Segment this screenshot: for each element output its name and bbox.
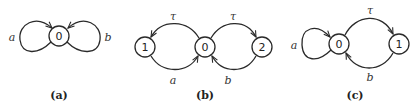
diagram-c: 0 1 a τ b (c) [291,4,409,102]
diagram-a: 0 a b (a) [9,21,112,101]
edge-2-to-0-b [212,56,256,70]
edge-0-to-1-tau [151,24,199,38]
edge-label-b: b [224,74,231,87]
caption-a: (a) [50,89,68,102]
edge-a-loop-b [67,21,100,51]
caption-b: (b) [196,89,214,102]
transition-diagrams: 0 a b (a) 1 0 2 τ a τ b (b) 0 1 a τ b (c… [0,0,420,109]
edge-1-to-0-a [151,56,198,70]
caption-c: (c) [346,89,363,102]
edge-0-to-2-tau [211,24,256,38]
edge-label-tau: τ [230,10,237,23]
node-label: 1 [142,41,149,54]
edge-label-a: a [9,31,16,44]
edge-label-b: b [104,31,111,44]
edge-label-tau: τ [367,4,374,17]
node-label: 1 [396,38,403,51]
edge-1-to-0-b [346,53,393,68]
edge-label-a: a [170,74,177,87]
edge-label-tau: τ [170,10,177,23]
edge-0-loop-a [302,28,331,58]
edge-label-b: b [366,71,373,84]
node-label: 0 [202,41,209,54]
node-label: 0 [56,30,63,43]
node-label: 0 [336,38,343,51]
edge-a-loop-a [20,21,52,51]
edge-label-a: a [291,39,298,52]
node-label: 2 [259,41,266,54]
edge-0-to-1-tau [345,18,393,35]
diagram-b: 1 0 2 τ a τ b (b) [135,10,272,102]
